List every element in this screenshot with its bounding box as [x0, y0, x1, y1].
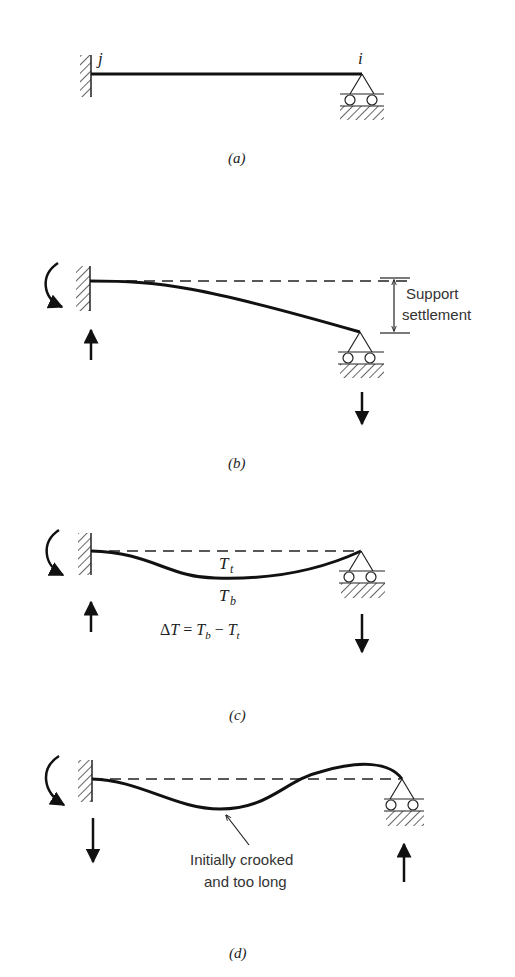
- node-label-j: j: [96, 49, 103, 68]
- fixed-support-j: [80, 55, 91, 97]
- deflected-beam: [90, 281, 360, 332]
- temperature-equation: ΔT = Tb − Tt: [160, 621, 241, 641]
- bottom-temperature-label: T b: [219, 586, 236, 608]
- caption-d: (d): [229, 945, 247, 962]
- svg-text:T: T: [219, 554, 230, 573]
- svg-text:T: T: [219, 586, 230, 605]
- caption-c: (c): [229, 707, 246, 724]
- crooked-label-line2: and too long: [204, 873, 287, 890]
- moment-arrow-icon: [46, 756, 64, 805]
- fixed-support-j: [76, 266, 90, 311]
- settlement-label-line2: settlement: [402, 306, 472, 323]
- crooked-label-line1: Initially crooked: [190, 851, 293, 868]
- caption-b: (b): [228, 455, 246, 472]
- panel-c: T t T b ΔT = Tb − Tt (c): [47, 530, 385, 724]
- roller-support-i: [340, 74, 384, 120]
- node-label-i: i: [358, 49, 363, 68]
- fixed-support-j: [78, 533, 91, 575]
- caption-a: (a): [228, 150, 246, 167]
- panel-a: j i (a): [80, 49, 384, 167]
- panel-b: Support settlement (b): [46, 263, 472, 472]
- settlement-label-line1: Support: [406, 285, 459, 302]
- crooked-beam: [92, 764, 402, 809]
- leader-arrow-icon: [226, 815, 249, 845]
- moment-arrow-icon: [46, 263, 62, 307]
- fixed-support-j: [78, 760, 92, 802]
- moment-arrow-icon: [47, 530, 63, 575]
- svg-text:b: b: [230, 594, 236, 608]
- roller-support-i: [338, 332, 384, 378]
- diagram-canvas: j i (a): [0, 0, 515, 977]
- roller-support-i: [384, 779, 424, 826]
- svg-text:ΔT = Tb − Tt: ΔT = Tb − Tt: [160, 621, 241, 641]
- svg-text:t: t: [230, 562, 234, 576]
- top-temperature-label: T t: [219, 554, 234, 576]
- panel-d: Initially crooked and too long (d): [46, 756, 424, 962]
